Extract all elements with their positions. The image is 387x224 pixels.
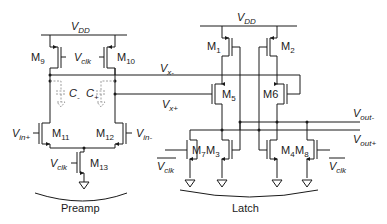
latch-vdd-label: VDD: [237, 11, 256, 26]
vout-plus-label: Vout+: [353, 133, 376, 148]
vclk-bar-label-right: Vclk: [329, 160, 347, 175]
capacitor-c-plus: C+: [86, 81, 115, 107]
transistor-m1: M1: [207, 26, 240, 130]
transistor-m12: M12 Vin-: [96, 122, 153, 146]
svg-text:M2: M2: [281, 40, 295, 55]
svg-text:M1: M1: [207, 40, 221, 55]
capacitor-c-minus: C-: [50, 81, 80, 107]
latch-label: Latch: [232, 202, 259, 214]
source-arrow-icon: [46, 142, 50, 146]
svg-text:M12: M12: [96, 127, 115, 142]
vclk-label-m13: Vclk: [50, 157, 68, 172]
svg-text:M3: M3: [206, 144, 220, 159]
transistor-m5: M5: [210, 75, 236, 130]
latch-brace: [180, 190, 318, 197]
svg-text:M10: M10: [117, 51, 136, 66]
vin-minus-label: Vin-: [136, 127, 153, 142]
svg-text:M7: M7: [192, 144, 206, 159]
svg-text:M4: M4: [281, 144, 295, 159]
svg-text:M11: M11: [52, 127, 70, 142]
vclk-bar-label-left: Vclk: [157, 160, 175, 175]
transistor-m9: M9: [31, 35, 66, 75]
transistor-m11: M11 Vin+: [12, 122, 70, 146]
latch-section: VDD M1 M2 M5: [157, 11, 376, 214]
transistor-m13: M13 Vclk: [50, 148, 109, 178]
svg-text:M13: M13: [90, 157, 109, 172]
svg-text:M9: M9: [31, 51, 45, 66]
svg-text:C-: C-: [69, 87, 80, 102]
transistor-m10: M10: [99, 35, 136, 75]
source-arrow-icon: [115, 142, 119, 146]
preamp-label: Preamp: [61, 202, 100, 214]
source-arrow-icon: [53, 45, 57, 49]
vout-minus-label: Vout-: [353, 107, 374, 122]
preamp-vdd-label: VDD: [71, 20, 90, 35]
vclk-label-top: Vclk: [74, 51, 92, 66]
preamp-brace: [35, 193, 127, 201]
ground-icon: [79, 182, 89, 189]
svg-text:C+: C+: [86, 87, 99, 102]
vin-plus-label: Vin+: [12, 127, 31, 142]
preamp-section: VDD M9 Vclk M10 Vx- Vx+: [12, 20, 300, 214]
svg-text:M5: M5: [222, 88, 236, 103]
comparator-schematic: VDD M9 Vclk M10 Vx- Vx+: [0, 0, 387, 224]
svg-text:M8: M8: [295, 144, 309, 159]
svg-text:M6: M6: [263, 88, 278, 100]
transistor-m6: M6: [263, 75, 300, 122]
source-arrow-icon: [108, 45, 112, 49]
vx-plus-label: Vx+: [162, 98, 178, 113]
